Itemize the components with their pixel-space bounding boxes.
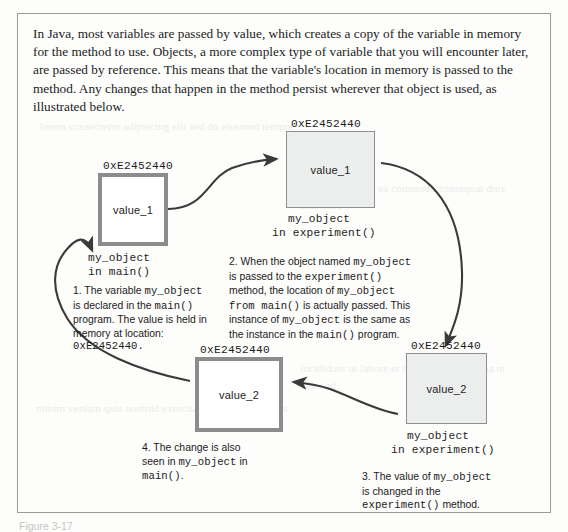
step-note-1-line-5: 0xE2452440. bbox=[73, 340, 233, 354]
step-note-4: 4. The change is also seen in my_object … bbox=[142, 441, 322, 484]
box-caption-main-value-1-line1: my_object bbox=[88, 251, 150, 266]
step-note-2: 2. When the object named my_object is pa… bbox=[229, 255, 439, 343]
address-label-experiment-value-1: 0xE2452440 bbox=[291, 118, 361, 130]
memory-box-experiment-value-2: value_2 bbox=[406, 353, 487, 424]
step-note-2-line-4: from main() is actually passed. This bbox=[229, 299, 439, 314]
memory-box-value: value_2 bbox=[219, 389, 259, 401]
memory-box-rect: value_1 bbox=[286, 131, 375, 208]
memory-box-experiment-value-1: value_1 bbox=[286, 131, 375, 208]
memory-box-value: value_1 bbox=[113, 204, 153, 216]
step-note-2-line-5: instance of my_object is the same as bbox=[229, 313, 439, 328]
memory-box-rect: value_1 bbox=[98, 173, 168, 246]
step-note-2-line-6: the instance in the main() program. bbox=[229, 328, 439, 343]
step-note-2-line-1: 2. When the object named my_object bbox=[229, 255, 439, 270]
address-label-main-value-1: 0xE2452440 bbox=[103, 160, 173, 172]
step-note-3-line-3: experiment() method. bbox=[362, 498, 542, 513]
box-caption-experiment-value-2-line2: in experiment() bbox=[391, 443, 495, 458]
step-note-1-line-3: program. The value is held in bbox=[73, 313, 233, 327]
box-caption-experiment-value-1-line2: in experiment() bbox=[272, 226, 376, 241]
figure-caption: Figure 3-17 bbox=[19, 520, 73, 532]
box-caption-main-value-1-line2: in main() bbox=[88, 265, 150, 280]
box-caption-experiment-value-1-line1: my_object bbox=[288, 212, 350, 227]
step-note-4-line-1: 4. The change is also bbox=[142, 441, 322, 455]
step-note-1-line-4: memory at location: bbox=[73, 327, 233, 341]
memory-box-value: value_2 bbox=[427, 383, 467, 395]
memory-box-rect: value_2 bbox=[406, 353, 487, 424]
step-note-2-line-3: method, the location of my_object bbox=[229, 284, 439, 299]
step-note-1: 1. The variable my_object is declared in… bbox=[73, 284, 233, 354]
step-note-2-line-2: is passed to the experiment() bbox=[229, 270, 439, 285]
step-note-3-line-1: 3. The value of my_object bbox=[362, 470, 542, 485]
step-note-3-line-2: is changed in the bbox=[362, 485, 542, 499]
step-note-4-line-3: main(). bbox=[142, 469, 322, 484]
memory-box-value: value_1 bbox=[311, 164, 351, 176]
intro-paragraph: In Java, most variables are passed by va… bbox=[33, 25, 538, 116]
memory-box-rect: value_2 bbox=[195, 357, 283, 432]
step-note-1-line-2: is declared in the main() bbox=[73, 299, 233, 314]
box-caption-experiment-value-2-line1: my_object bbox=[407, 429, 469, 444]
step-note-3: 3. The value of my_object is changed in … bbox=[362, 470, 542, 513]
figure-page: lorem consectetur adipiscing elit sed do… bbox=[0, 0, 568, 532]
step-note-4-line-2: seen in my_object in bbox=[142, 455, 322, 470]
memory-box-main-value-1: value_1 bbox=[98, 173, 168, 246]
memory-box-main-value-2: value_2 bbox=[195, 357, 283, 432]
step-note-1-line-1: 1. The variable my_object bbox=[73, 284, 233, 299]
